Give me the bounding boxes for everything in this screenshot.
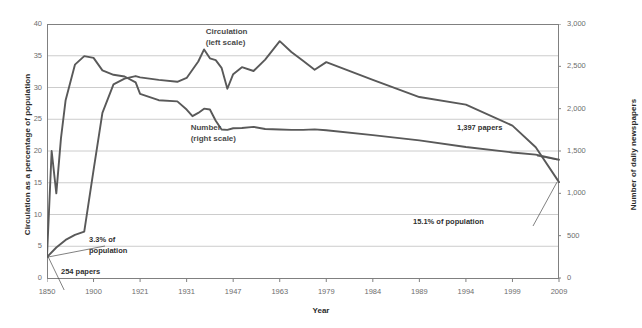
y-axis-right-tick: 1,000 [567,188,603,197]
series-label-circulation-line2: (left scale) [206,37,248,48]
series-label-circulation: Circulation (left scale) [206,26,248,48]
y-axis-right-tick: 0 [567,273,603,282]
y-axis-left-tick: 0 [16,273,42,282]
y-axis-right-tick: 2,000 [567,104,603,113]
y-axis-left-tick: 30 [16,83,42,92]
y-axis-left-tick: 10 [16,210,42,219]
annotation-start-circulation: 3.3% of population [89,234,127,256]
annotation-end-circulation: 15.1% of population [413,216,484,227]
y-axis-right-tick: 3,000 [567,19,603,28]
y-axis-left-tick: 20 [16,146,42,155]
annotation-start-circulation-line2: population [89,245,127,256]
y-axis-left-tick: 40 [16,19,42,28]
y-axis-right-tick: 500 [567,231,603,240]
series-label-number-line1: Number [191,122,236,133]
annotation-start-papers: 254 papers [61,266,100,277]
leader-end-circulation [533,182,557,226]
annotation-start-circulation-line1: 3.3% of [89,234,127,245]
annotation-end-papers: 1,397 papers [457,122,502,133]
series-label-circulation-line1: Circulation [206,26,248,37]
y-axis-left-tick: 25 [16,114,42,123]
y-axis-right-tick: 2,500 [567,61,603,70]
series-label-number: Number (right scale) [191,122,236,144]
x-axis-title: Year [0,306,642,315]
y-axis-left-tick: 35 [16,51,42,60]
y-axis-left-tick: 5 [16,241,42,250]
y-axis-right-tick: 1,500 [567,146,603,155]
y-axis-left-tick: 15 [16,178,42,187]
y-axis-right-title: Number of daily newspapers [629,70,638,240]
chart-container: Circulation as a percentage of populatio… [0,0,642,328]
series-label-number-line2: (right scale) [191,133,236,144]
